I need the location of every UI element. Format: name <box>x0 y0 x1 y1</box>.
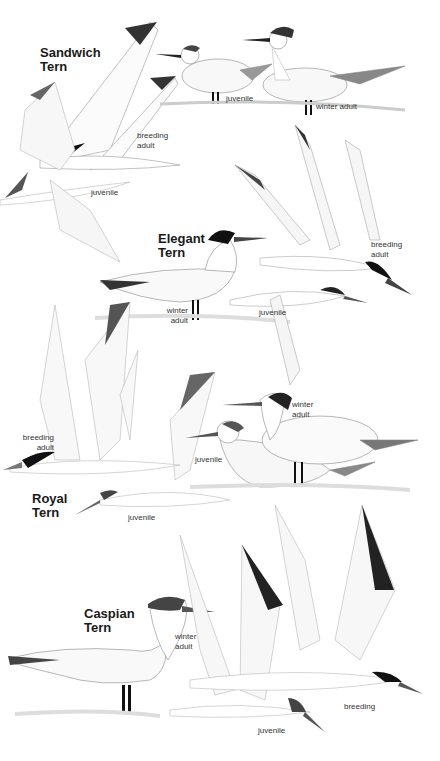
label-sandwich-winter-adult: winter adult <box>316 102 357 112</box>
ground-shadow <box>160 102 405 110</box>
label-royal-winter-adult: winter adult <box>292 400 313 420</box>
label-caspian-winter-adult: winter adult <box>175 632 196 652</box>
label-elegant-juvenile: juvenile <box>259 308 286 318</box>
label-royal-breeding-adult: breeding adult <box>18 433 54 453</box>
elegant-tern-flying-breeding-adult <box>235 125 412 295</box>
label-caspian-juvenile: juvenile <box>258 726 285 736</box>
species-title-caspian-tern: Caspian Tern <box>84 607 135 635</box>
elegant-tern-flying-juvenile <box>230 287 368 385</box>
sandwich-tern-flying-juvenile <box>0 172 130 262</box>
label-royal-juvenile-flying: juvenile <box>128 513 155 523</box>
species-title-sandwich-tern: Sandwich Tern <box>40 46 101 74</box>
caspian-tern-flying-group <box>170 505 423 732</box>
label-elegant-winter-adult: winter adult <box>160 306 188 326</box>
label-sandwich-juvenile-flying: juvenile <box>91 188 118 198</box>
ground-shadow <box>15 711 160 716</box>
sandwich-tern-flying-breeding-left-wing <box>20 82 75 170</box>
sandwich-tern-standing-juvenile <box>155 45 272 104</box>
species-title-elegant-tern: Elegant Tern <box>158 232 205 260</box>
ground-shadow <box>190 485 410 490</box>
label-sandwich-breeding-adult: breeding adult <box>137 131 168 151</box>
tern-illustration-plate: Sandwich Tern Elegant Tern Royal Tern Ca… <box>0 0 440 761</box>
label-royal-juvenile-standing: juvenile <box>195 455 222 465</box>
royal-tern-flying-juvenile <box>75 490 230 515</box>
species-title-royal-tern: Royal Tern <box>32 492 67 520</box>
royal-tern-flying-breeding-adult <box>3 302 215 480</box>
label-sandwich-juvenile-standing: juvenile <box>226 94 253 104</box>
label-elegant-breeding-adult: breeding adult <box>371 240 402 260</box>
bird-illustrations <box>0 0 440 761</box>
label-caspian-breeding: breeding <box>344 702 375 712</box>
